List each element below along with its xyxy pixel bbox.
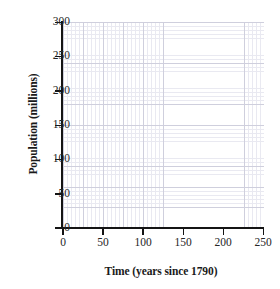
plot-area xyxy=(63,22,264,228)
y-tick-label: 200 xyxy=(36,84,70,96)
x-tick-mark xyxy=(142,229,144,235)
x-tick-mark xyxy=(102,229,104,235)
x-tick-label: 200 xyxy=(203,236,243,248)
y-tick-label: 50 xyxy=(36,187,70,199)
x-tick-label: 50 xyxy=(83,236,123,248)
x-axis-line xyxy=(61,227,264,229)
y-tick-label: 100 xyxy=(36,152,70,164)
x-tick-label: 100 xyxy=(123,236,163,248)
x-tick-mark xyxy=(183,229,185,235)
y-tick-label: 150 xyxy=(36,118,70,130)
x-tick-label: 0 xyxy=(43,236,83,248)
y-tick-label: 300 xyxy=(36,15,70,27)
x-tick-mark xyxy=(223,229,225,235)
y-tick-label: 250 xyxy=(36,49,70,61)
x-axis-title: Time (years since 1790) xyxy=(42,265,280,277)
x-tick-mark xyxy=(62,229,64,235)
x-tick-mark xyxy=(263,229,265,235)
y-tick-label: 0 xyxy=(36,221,70,233)
x-tick-label: 150 xyxy=(163,236,203,248)
x-tick-label: 250 xyxy=(243,236,280,248)
chart-figure: Population (millions) 300 250 200 150 10… xyxy=(0,0,280,289)
